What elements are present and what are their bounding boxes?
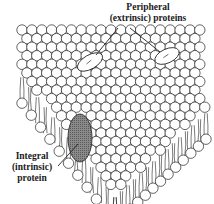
integral-protein-label: Integral (intrinsic) protein (4, 151, 60, 184)
integral-label-line1: Integral (4, 151, 60, 162)
integral-label-line2: (intrinsic) (4, 162, 60, 173)
peripheral-label-line2: (extrinsic) proteins (100, 13, 196, 24)
proteins (68, 114, 92, 162)
peripheral-label-line1: Peripheral (100, 2, 196, 13)
integral-label-line3: protein (4, 173, 60, 184)
peripheral-proteins-label: Peripheral (extrinsic) proteins (100, 2, 196, 24)
integral-protein (68, 114, 92, 162)
